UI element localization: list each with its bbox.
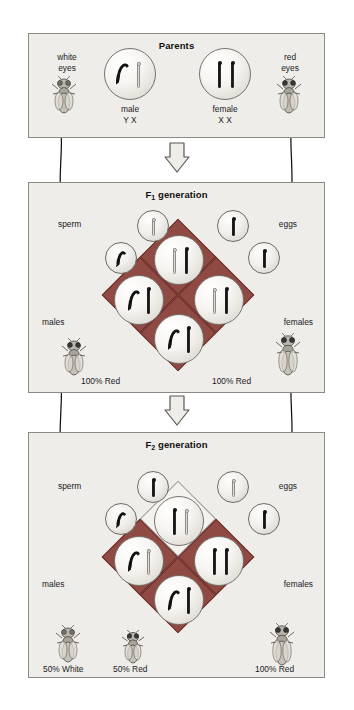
f2-females-label: females bbox=[284, 579, 313, 590]
fly-f2-red-male bbox=[121, 630, 145, 666]
fly-parent-white-male bbox=[51, 76, 77, 116]
panel-f2-title: F2 generation bbox=[29, 439, 324, 451]
f1-females-result: 100% Red bbox=[212, 376, 251, 387]
fly-parent-red-female bbox=[276, 76, 302, 116]
f1-sperm-cell-x-light bbox=[137, 210, 169, 242]
f2-sperm-label: sperm bbox=[58, 481, 81, 492]
f1-males-result: 100% Red bbox=[81, 376, 120, 387]
f2-result-red-males: 50% Red bbox=[113, 664, 147, 675]
panel-f1: F1 generation sperm eggs bbox=[28, 182, 325, 393]
parent-female-label: female bbox=[199, 104, 251, 115]
chromosome-y-dark bbox=[115, 62, 131, 87]
label-white-eyes: white eyes bbox=[43, 52, 91, 73]
f2-sperm-cell-x-dark bbox=[137, 471, 169, 503]
chromosome-x-dark-2 bbox=[231, 62, 234, 88]
f2-sperm-cell-y-dark bbox=[105, 503, 137, 535]
f2-eggs-label: eggs bbox=[279, 481, 297, 492]
panel-f2-title-rest: generation bbox=[155, 439, 207, 450]
f1-females-label: females bbox=[284, 317, 313, 328]
chromosome-x-light bbox=[137, 62, 140, 88]
parent-male-genotype: Y X bbox=[104, 115, 156, 126]
f1-sperm-cell-y-dark bbox=[105, 242, 137, 274]
f2-zygote-right bbox=[194, 536, 244, 586]
fly-f1-female bbox=[275, 333, 301, 379]
panel-f1-title: F1 generation bbox=[29, 189, 324, 201]
f2-zygote-bottom bbox=[154, 575, 204, 625]
label-red-eyes: red eyes bbox=[268, 52, 312, 73]
f1-eggs-label: eggs bbox=[279, 219, 297, 230]
parent-female-genotype: X X bbox=[199, 115, 251, 126]
panel-parents-title: Parents bbox=[29, 40, 324, 51]
fly-f2-red-female bbox=[269, 623, 295, 669]
figure-canvas: Parents white eyes red eyes male Y X fem… bbox=[0, 0, 354, 710]
panel-f1-title-rest: generation bbox=[155, 189, 207, 200]
flow-arrow-f1-to-f2 bbox=[163, 395, 191, 428]
panel-parents: Parents white eyes red eyes male Y X fem… bbox=[28, 33, 325, 138]
f2-males-label: males bbox=[42, 579, 64, 590]
f1-zygote-top bbox=[154, 235, 204, 285]
f1-egg-cell-x-dark-1 bbox=[217, 210, 249, 242]
f2-egg-cell-x-light bbox=[217, 471, 249, 503]
flow-arrow-parents-to-f1 bbox=[163, 142, 191, 175]
fly-f2-white-male bbox=[55, 625, 81, 665]
chromosome-x-dark-1 bbox=[218, 62, 221, 88]
f2-result-white-males: 50% White bbox=[43, 664, 84, 675]
f2-zygote-left-white bbox=[114, 536, 164, 586]
f2-egg-cell-x-dark bbox=[248, 503, 280, 535]
f1-zygote-right bbox=[194, 275, 244, 325]
parent-male-label: male bbox=[104, 104, 156, 115]
parent-female-cell bbox=[199, 48, 251, 100]
f1-zygote-left bbox=[114, 275, 164, 325]
f1-zygote-bottom bbox=[154, 314, 204, 364]
f2-result-red-females: 100% Red bbox=[255, 664, 294, 675]
f1-sperm-label: sperm bbox=[58, 219, 81, 230]
f1-males-label: males bbox=[42, 317, 64, 328]
panel-f2: F2 generation sperm eggs bbox=[28, 432, 325, 678]
f1-egg-cell-x-dark-2 bbox=[248, 242, 280, 274]
f2-zygote-top bbox=[154, 496, 204, 546]
parent-male-cell bbox=[104, 48, 156, 100]
fly-f1-male bbox=[61, 338, 87, 380]
